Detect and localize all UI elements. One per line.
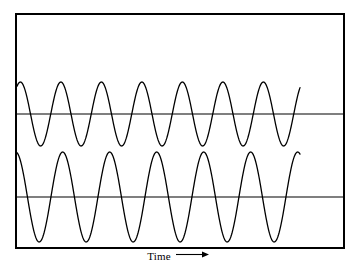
waveform-plot (0, 0, 357, 271)
waveform-figure: Time (0, 0, 357, 271)
plot-background (0, 0, 357, 271)
right-arrow-icon (176, 249, 210, 261)
x-axis-label-group: Time (0, 249, 357, 262)
x-axis-label-text: Time (147, 250, 171, 262)
